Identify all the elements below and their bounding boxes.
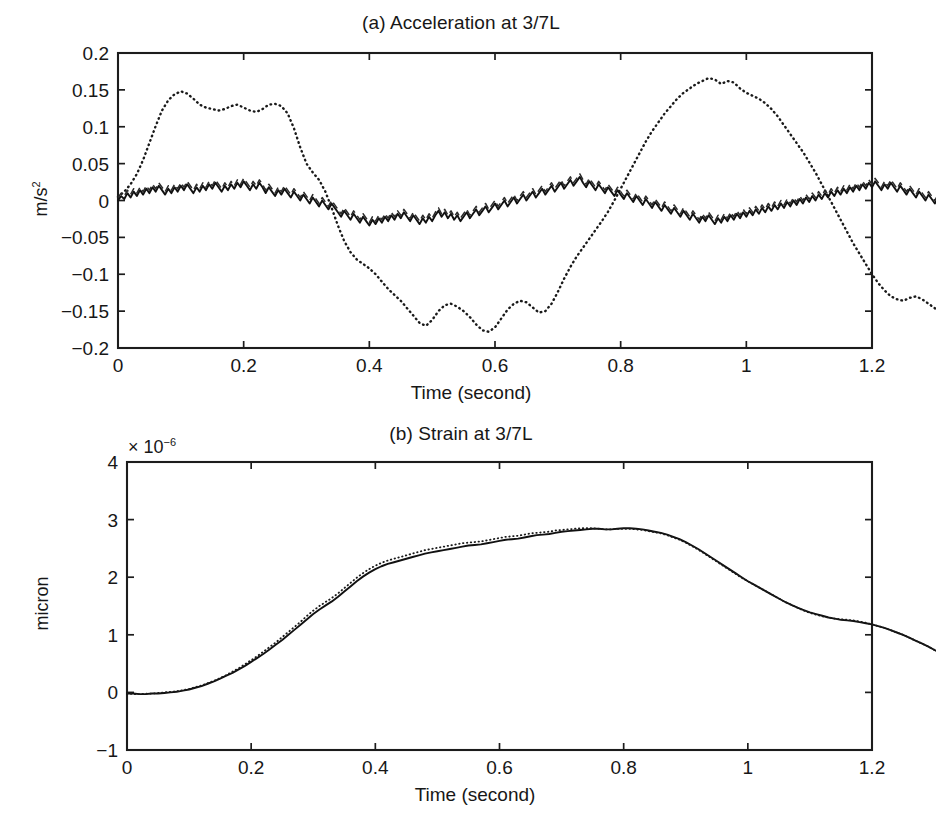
y-tick-label: −0.2 <box>71 338 109 359</box>
panel-b-plot: 00.20.40.60.811.243210−1 <box>0 414 922 829</box>
y-tick-label: 0 <box>98 191 109 212</box>
y-tick-label: −0.1 <box>71 264 109 285</box>
x-tick-label: 0.6 <box>486 757 512 778</box>
y-tick-label: −0.15 <box>61 301 109 322</box>
y-tick-label: 1 <box>107 625 118 646</box>
y-tick-label: 2 <box>107 567 118 588</box>
y-tick-label: 0.05 <box>72 154 109 175</box>
y-tick-label: 0.1 <box>83 117 109 138</box>
x-tick-label: 0.4 <box>356 355 383 376</box>
x-tick-label: 1 <box>743 757 754 778</box>
series-solid-measured <box>127 528 936 704</box>
y-tick-label: 3 <box>107 510 118 531</box>
y-tick-label: −0.05 <box>61 227 109 248</box>
y-tick-label: 0.15 <box>72 80 109 101</box>
plot-frame <box>118 53 872 348</box>
y-tick-label: −1 <box>96 740 118 761</box>
x-tick-label: 1.2 <box>859 757 885 778</box>
x-tick-label: 0.6 <box>482 355 508 376</box>
x-tick-label: 0.8 <box>607 355 633 376</box>
y-tick-label: 4 <box>107 452 118 473</box>
y-tick-label: 0.2 <box>83 43 109 64</box>
panel-strain: (b) Strain at 3/7L × 10−6 micron Time (s… <box>0 414 922 829</box>
x-tick-label: 0 <box>122 757 133 778</box>
x-tick-label: 1 <box>741 355 752 376</box>
x-tick-label: 0.2 <box>230 355 256 376</box>
x-tick-label: 0.8 <box>610 757 636 778</box>
panel-a-plot: 00.20.40.60.811.20.20.150.10.050−0.05−0.… <box>0 0 922 415</box>
x-tick-label: 1.2 <box>859 355 885 376</box>
y-tick-label: 0 <box>107 682 118 703</box>
series-dotted-predicted <box>127 528 936 704</box>
panel-acceleration: (a) Acceleration at 3/7L m/s2 Time (seco… <box>0 0 922 415</box>
plot-frame <box>127 462 872 750</box>
series-dotted-large-amplitude <box>118 78 936 332</box>
x-tick-label: 0.2 <box>238 757 264 778</box>
x-tick-label: 0 <box>113 355 124 376</box>
x-tick-label: 0.4 <box>362 757 389 778</box>
